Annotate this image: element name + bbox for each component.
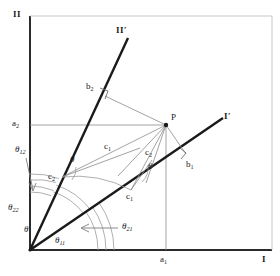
arc-theta-origin (53, 192, 83, 214)
angle-label-theta-origin: θ (24, 225, 28, 234)
a1-subscript: 1 (164, 259, 167, 265)
diagram-canvas: II I II′ I′ P b1 b2 c1 c2 c1 c2 a1 a2 θ1… (0, 0, 280, 276)
angle-label-theta-at-c1: θ (148, 162, 152, 171)
axis-label-II-prime: II′ (116, 26, 127, 35)
arc-theta-21 (99, 202, 114, 250)
theta-12-subscript: 12 (19, 149, 25, 155)
ray-II-prime (30, 38, 128, 250)
rotated-axes-group (30, 38, 223, 250)
point-label-c2-mid: c2 (145, 148, 152, 158)
c2-axis-subscript: 2 (52, 176, 55, 182)
angle-arc-group (30, 174, 114, 250)
angle-label-theta-at-c2: θ (70, 155, 74, 164)
axis-group (30, 16, 272, 250)
geometry-figure (0, 0, 280, 276)
angle-label-theta-11: θ11 (55, 236, 65, 246)
c1-mid-subscript: 1 (108, 146, 111, 152)
arc-theta-22 (30, 192, 51, 196)
point-label-P: P (171, 113, 176, 122)
axis-label-I-prime: I′ (224, 112, 231, 121)
a2-subscript: 2 (16, 123, 19, 129)
marker-P (164, 123, 168, 127)
point-markers (28, 123, 168, 252)
c1-axis-subscript: 1 (130, 196, 133, 202)
angle-label-theta-21: θ21 (122, 222, 133, 232)
c2-mid-subscript: 2 (149, 152, 152, 158)
point-label-c1-mid: c1 (104, 142, 111, 152)
fan-line-1 (118, 125, 166, 176)
coordinate-reference-lines (30, 125, 166, 250)
coordinate-label-a1: a1 (160, 255, 167, 265)
angle-label-theta-22: θ22 (8, 203, 19, 213)
point-label-b1: b1 (186, 160, 194, 170)
right-angle-marks (100, 88, 186, 159)
b1-subscript: 1 (191, 164, 194, 170)
theta-11-subscript: 11 (59, 240, 65, 246)
theta-22-subscript: 22 (12, 207, 18, 213)
point-label-b2: b2 (86, 82, 94, 92)
arc-theta-at-c2 (72, 167, 76, 180)
axis-label-I: I (262, 255, 266, 264)
angle-label-theta-12: θ12 (15, 145, 26, 155)
line-P-b2 (105, 96, 166, 125)
b2-subscript: 2 (91, 86, 94, 92)
marker-origin (28, 248, 31, 251)
point-label-c1-axis: c1 (126, 192, 133, 202)
point-label-c2-axis: c2 (48, 172, 55, 182)
theta-21-subscript: 21 (126, 226, 132, 232)
arc-theta-11 (86, 211, 98, 250)
axis-label-II: II (13, 10, 21, 19)
arc-theta-origin-b (56, 185, 90, 210)
coordinate-label-a2: a2 (12, 119, 19, 129)
